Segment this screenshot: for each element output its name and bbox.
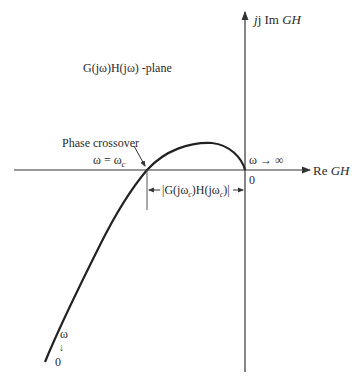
omega-zero-label: 0 (55, 355, 61, 369)
imag-axis-label: jj Im GH (252, 12, 302, 27)
omega-c-label: ω = ωc (93, 153, 126, 169)
nyquist-curve (45, 143, 245, 362)
omega-start-label: ω (60, 327, 68, 341)
omega-inf-label: ω → ∞ (249, 153, 283, 167)
omega-start-arrow: ↓ (59, 342, 64, 353)
plane-title: G(jω)H(jω) -plane (83, 61, 172, 75)
phase-crossover-label: Phase crossover (62, 136, 139, 150)
real-axis-label: Re GH (313, 163, 350, 178)
origin-label: 0 (249, 173, 255, 187)
magnitude-label: |G(jωc)H(jωc)| (162, 183, 230, 199)
nyquist-diagram: jj Im GH G(jω)H(jω) -plane Phase crossov… (0, 0, 352, 383)
